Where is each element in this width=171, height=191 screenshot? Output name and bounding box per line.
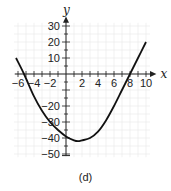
x-tick-label: −6 [12,77,25,89]
y-tick-label: 20 [48,36,60,48]
data-curve [16,42,146,141]
x-axis-label: x [160,67,167,81]
y-tick-label: 30 [48,20,60,32]
grid [14,23,150,157]
y-axis-label: y [62,3,70,17]
x-tick-label: 6 [111,77,117,89]
x-tick-label: −2 [44,77,57,89]
y-tick-label: −50 [41,148,60,160]
x-tick-label: 10 [140,77,152,89]
y-tick-label: 10 [48,52,60,64]
chart: −6−4−2246810302010−20−30−40−50 x y [0,0,171,191]
x-tick-label: 4 [95,77,101,89]
y-tick-label: −20 [41,100,60,112]
y-tick-label: −40 [41,132,60,144]
figure-caption: (d) [0,171,171,183]
x-tick-label: 2 [79,77,85,89]
